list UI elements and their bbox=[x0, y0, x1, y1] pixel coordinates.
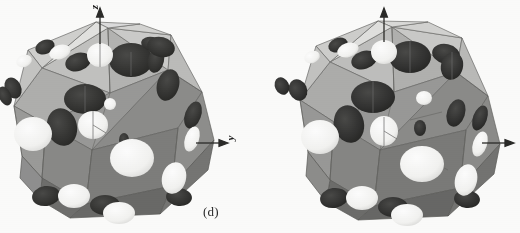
figure-panel-d: z y (d) bbox=[0, 0, 260, 233]
figure-panel-pair: z y (d) bbox=[0, 0, 520, 233]
axis-label-y-d: y bbox=[224, 136, 236, 141]
polyhedron-render-c bbox=[260, 0, 520, 233]
panel-caption-d: (d) bbox=[203, 204, 219, 220]
polyhedron-render-d bbox=[0, 0, 260, 233]
polyhedron-body-c bbox=[272, 8, 514, 226]
polyhedron-body-d bbox=[0, 8, 228, 224]
figure-panel-c: z y (c) bbox=[260, 0, 520, 233]
axis-label-z-d: z bbox=[88, 5, 100, 9]
